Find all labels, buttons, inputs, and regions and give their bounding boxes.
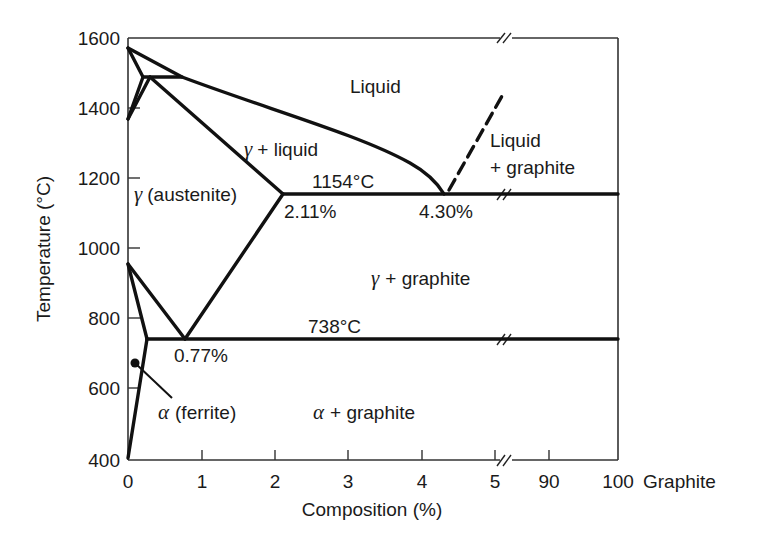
acm-line	[185, 194, 283, 339]
x-axis-labels: 0 1 2 3 4 5 90 100 Graphite	[123, 471, 716, 492]
label-0-77-pct: 0.77%	[174, 345, 228, 366]
y-tick-1400: 1400	[78, 98, 120, 119]
label-4-30-pct: 4.30%	[419, 201, 473, 222]
label-ferrite: α(ferrite)	[158, 400, 236, 424]
x-tick-100: 100	[602, 471, 634, 492]
x-end-label-graphite: Graphite	[643, 471, 716, 492]
label-eutectoid-temp: 738°C	[308, 316, 361, 337]
y-axis-title: Temperature (°C)	[33, 176, 54, 322]
x-tick-5: 5	[490, 471, 501, 492]
y-axis-labels: 1600 1400 1200 1000 800 600 400	[78, 28, 120, 471]
label-2-11-pct: 2.11%	[284, 201, 337, 222]
y-tick-600: 600	[88, 378, 120, 399]
label-alpha-graphite: α+ graphite	[313, 400, 415, 424]
x-tick-0: 0	[123, 471, 134, 492]
liquidus-line	[128, 48, 444, 194]
y-tick-1600: 1600	[78, 28, 120, 49]
y-tick-1200: 1200	[78, 168, 120, 189]
label-gamma-liquid: γ+ liquid	[244, 137, 318, 161]
x-tick-1: 1	[197, 471, 208, 492]
x-axis-ticks	[202, 450, 549, 460]
y-tick-800: 800	[88, 308, 120, 329]
region-labels: Liquid γ+ liquid Liquid + graphite 1154°…	[134, 76, 575, 424]
x-tick-4: 4	[417, 471, 428, 492]
x-tick-3: 3	[343, 471, 354, 492]
label-eutectic-temp: 1154°C	[312, 171, 374, 192]
ferrite-solvus	[128, 339, 147, 458]
x-tick-90: 90	[538, 471, 559, 492]
label-gamma-graphite: γ+ graphite	[371, 266, 470, 290]
solidus-line	[150, 77, 283, 194]
label-liquid-graphite-line2: + graphite	[490, 157, 575, 178]
y-tick-400: 400	[88, 450, 120, 471]
y-axis-ticks	[128, 108, 140, 388]
x-tick-2: 2	[270, 471, 281, 492]
y-tick-1000: 1000	[78, 238, 120, 259]
label-austenite: γ(austenite)	[134, 182, 237, 206]
label-liquid: Liquid	[350, 76, 401, 97]
label-liquid-graphite-line1: Liquid	[490, 130, 541, 151]
plot-frame	[128, 38, 618, 460]
x-axis-title: Composition (%)	[302, 499, 442, 520]
phase-boundaries	[128, 48, 618, 458]
phase-diagram: 1600 1400 1200 1000 800 600 400 0 1 2 3 …	[0, 0, 764, 551]
